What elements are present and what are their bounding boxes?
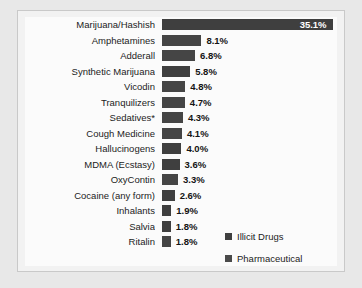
bar-row: Cough Medicine4.1% xyxy=(25,126,337,142)
legend-item[interactable]: Pharmaceutical xyxy=(225,247,345,269)
bar-track: 4.0% xyxy=(162,141,337,157)
bar-row: Tranquilizers4.7% xyxy=(25,95,337,111)
legend-label: Pharmaceutical xyxy=(237,253,302,264)
category-label: Tranquilizers xyxy=(25,95,155,111)
legend-item[interactable]: Illicit Drugs xyxy=(225,225,345,247)
category-label: Sedatives* xyxy=(25,110,155,126)
bar xyxy=(162,66,190,77)
bar xyxy=(162,205,171,216)
bar-value-label: 4.7% xyxy=(190,95,212,111)
bar xyxy=(162,81,185,92)
bar-value-label: 5.8% xyxy=(195,64,217,80)
bar xyxy=(162,236,171,247)
bar xyxy=(162,159,180,170)
bar-value-label: 3.3% xyxy=(183,172,205,188)
bar-row: Sedatives*4.3% xyxy=(25,110,337,126)
bar-track: 35.1% xyxy=(162,17,337,33)
plot-area: Marijuana/Hashish35.1%Amphetamines8.1%Ad… xyxy=(25,17,337,266)
category-label: Salvia xyxy=(25,219,155,235)
bar-track: 5.8% xyxy=(162,64,337,80)
bar-value-label: 8.1% xyxy=(206,33,228,49)
bar-row: Marijuana/Hashish35.1% xyxy=(25,17,337,33)
chart-figure: Marijuana/Hashish35.1%Amphetamines8.1%Ad… xyxy=(0,0,362,288)
bar-value-label: 1.8% xyxy=(176,234,198,250)
bar-row: Inhalants1.9% xyxy=(25,203,337,219)
chart-frame: Marijuana/Hashish35.1%Amphetamines8.1%Ad… xyxy=(17,10,345,272)
bar-row: Amphetamines8.1% xyxy=(25,33,337,49)
bar-value-label: 2.6% xyxy=(180,188,202,204)
chart-legend: Illicit DrugsPharmaceutical xyxy=(225,225,345,269)
legend-swatch-icon xyxy=(225,233,232,240)
bar-track: 4.3% xyxy=(162,110,337,126)
category-label: Marijuana/Hashish xyxy=(25,17,155,33)
bar-track: 6.8% xyxy=(162,48,337,64)
category-label: Hallucinogens xyxy=(25,141,155,157)
bar-value-label: 3.6% xyxy=(185,157,207,173)
legend-swatch-icon xyxy=(225,255,232,262)
bar xyxy=(162,174,178,185)
category-label: Ritalin xyxy=(25,234,155,250)
bar xyxy=(162,50,195,61)
category-label: MDMA (Ecstasy) xyxy=(25,157,155,173)
category-label: OxyContin xyxy=(25,172,155,188)
bar-value-label: 4.3% xyxy=(188,110,210,126)
category-label: Amphetamines xyxy=(25,33,155,49)
bar xyxy=(162,35,201,46)
bar-track: 4.7% xyxy=(162,95,337,111)
bar-track: 2.6% xyxy=(162,188,337,204)
bar-value-label: 35.1% xyxy=(300,17,327,33)
bar xyxy=(162,128,182,139)
bar-row: Cocaine (any form)2.6% xyxy=(25,188,337,204)
bar-track: 1.9% xyxy=(162,203,337,219)
bar-value-label: 6.8% xyxy=(200,48,222,64)
category-label: Cough Medicine xyxy=(25,126,155,142)
bar-row: Synthetic Marijuana5.8% xyxy=(25,64,337,80)
bar-value-label: 4.8% xyxy=(190,79,212,95)
bar-track: 4.8% xyxy=(162,79,337,95)
bar-row: MDMA (Ecstasy)3.6% xyxy=(25,157,337,173)
bar-row: Vicodin4.8% xyxy=(25,79,337,95)
category-label: Inhalants xyxy=(25,203,155,219)
legend-label: Illicit Drugs xyxy=(237,231,283,242)
bar-row: Hallucinogens4.0% xyxy=(25,141,337,157)
bar-track: 8.1% xyxy=(162,33,337,49)
bar-track: 4.1% xyxy=(162,126,337,142)
bar-track: 3.3% xyxy=(162,172,337,188)
bar-track: 3.6% xyxy=(162,157,337,173)
category-label: Synthetic Marijuana xyxy=(25,64,155,80)
bar-value-label: 1.8% xyxy=(176,219,198,235)
bar-row: OxyContin3.3% xyxy=(25,172,337,188)
category-label: Adderall xyxy=(25,48,155,64)
bar-value-label: 1.9% xyxy=(176,203,198,219)
bars-container: Marijuana/Hashish35.1%Amphetamines8.1%Ad… xyxy=(25,17,337,250)
bar xyxy=(162,143,181,154)
bar xyxy=(162,190,175,201)
bar-value-label: 4.0% xyxy=(186,141,208,157)
category-label: Cocaine (any form) xyxy=(25,188,155,204)
bar-row: Adderall6.8% xyxy=(25,48,337,64)
bar xyxy=(162,112,183,123)
bar xyxy=(162,97,185,108)
category-label: Vicodin xyxy=(25,79,155,95)
bar xyxy=(162,221,171,232)
bar-value-label: 4.1% xyxy=(187,126,209,142)
